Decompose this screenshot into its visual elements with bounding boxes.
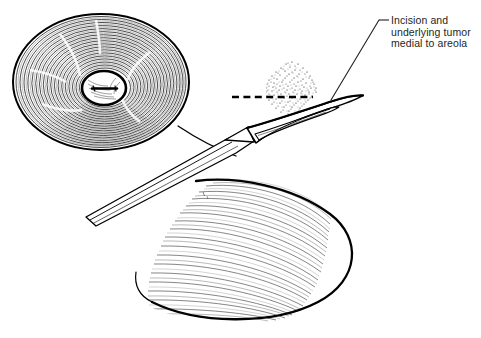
illustration-canvas	[0, 0, 481, 338]
areola-top-view	[13, 14, 236, 156]
callout-line	[331, 20, 379, 100]
callout-label-tumor-incision: Incision and underlying tumor medial to …	[391, 15, 471, 50]
callout-leader-tumor-incision	[331, 20, 389, 100]
breast-lower-body	[136, 180, 352, 321]
medical-illustration-figure: Incision and underlying tumor medial to …	[0, 0, 481, 338]
callout-label-line-1: Incision and	[391, 15, 471, 27]
callout-label-line-3: medial to areola	[391, 38, 471, 50]
breast-hatching	[148, 180, 332, 321]
